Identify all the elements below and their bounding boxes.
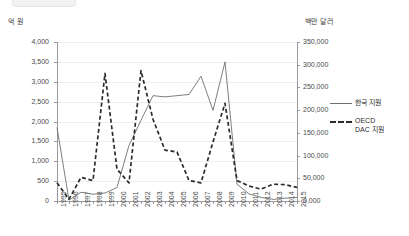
x-axis-tick xyxy=(273,201,274,204)
chart-figure: 억 원 백만 달러 4,0003,5003,0002,5002,0001,500… xyxy=(0,0,409,236)
x-axis-tick xyxy=(237,201,238,204)
x-axis-tick xyxy=(129,201,130,204)
x-axis-tick xyxy=(117,201,118,204)
left-axis-tick-label: 2,500 xyxy=(9,98,49,105)
right-axis-tick xyxy=(297,87,300,88)
right-axis-tick xyxy=(297,133,300,134)
top-ui-chip xyxy=(12,0,76,7)
x-axis-tick xyxy=(93,201,94,204)
x-axis-tick xyxy=(297,201,298,204)
left-axis-tick-label: 3,500 xyxy=(9,58,49,65)
right-axis-tick xyxy=(297,65,300,66)
legend-swatch-dashed xyxy=(330,118,352,126)
x-axis-tick xyxy=(81,201,82,204)
right-axis-unit-label: 백만 달러 xyxy=(305,16,333,26)
right-axis-tick xyxy=(297,42,300,43)
legend-item[interactable]: OECD DAC 지원 xyxy=(330,117,408,134)
x-axis-tick xyxy=(201,201,202,204)
x-axis-tick xyxy=(153,201,154,204)
x-axis-tick xyxy=(105,201,106,204)
x-axis-tick xyxy=(249,201,250,204)
x-axis-tick xyxy=(57,201,58,204)
x-axis-tick xyxy=(177,201,178,204)
legend-item[interactable]: 한국 지원 xyxy=(330,99,408,108)
x-axis-tick xyxy=(285,201,286,204)
left-axis-tick-label: 1,500 xyxy=(9,137,49,144)
left-axis-tick-label: 500 xyxy=(9,177,49,184)
x-axis-tick xyxy=(69,201,70,204)
right-axis-tick-label: 0,000 xyxy=(303,197,349,204)
right-axis-tick xyxy=(297,178,300,179)
left-axis-tick-label: 3,000 xyxy=(9,78,49,85)
series-line xyxy=(57,62,297,200)
right-axis-line xyxy=(297,42,298,201)
series-lines xyxy=(57,42,297,201)
legend-label: OECD DAC 지원 xyxy=(355,117,384,134)
left-axis-unit-label: 억 원 xyxy=(8,16,23,26)
right-axis-tick xyxy=(297,156,300,157)
right-axis-tick-label: 250,000 xyxy=(303,83,349,90)
left-axis-tick-label: 2,000 xyxy=(9,118,49,125)
x-axis-tick xyxy=(261,201,262,204)
x-axis-tick xyxy=(141,201,142,204)
right-axis-tick xyxy=(297,110,300,111)
x-axis-tick-label: 2015 xyxy=(300,191,307,207)
x-axis-tick xyxy=(213,201,214,204)
legend-swatch-solid xyxy=(330,100,352,108)
x-axis-tick xyxy=(165,201,166,204)
series-line xyxy=(57,71,297,200)
left-axis-tick-label: 4,000 xyxy=(9,38,49,45)
legend-label: 한국 지원 xyxy=(355,99,381,108)
right-axis-tick-label: 100,000 xyxy=(303,152,349,159)
chart-legend: 한국 지원OECD DAC 지원 xyxy=(330,99,408,143)
x-axis-tick xyxy=(189,201,190,204)
left-axis-tick-label: 0 xyxy=(9,197,49,204)
right-axis-tick-label: 350,000 xyxy=(303,38,349,45)
right-axis-tick-label: 50,000 xyxy=(303,174,349,181)
right-axis-tick-label: 300,000 xyxy=(303,61,349,68)
left-axis-tick-label: 1,000 xyxy=(9,157,49,164)
x-axis-tick xyxy=(225,201,226,204)
plot-area: 4,0003,5003,0002,5002,0001,5001,0005000 … xyxy=(57,42,297,201)
